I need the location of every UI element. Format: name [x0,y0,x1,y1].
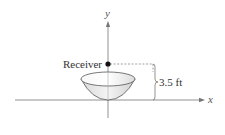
receiver-dot [105,61,110,66]
diagram-canvas: Receiver 3.5 ft y x [0,0,225,135]
y-axis-label: y [104,7,110,19]
x-axis-label: x [207,93,213,105]
x-axis-arrow-icon [199,98,205,102]
receiver-label: Receiver [63,58,102,70]
y-axis [106,21,110,118]
y-axis-arrow-icon [106,21,110,27]
parabolic-dish [81,72,135,100]
diagram-svg: Receiver 3.5 ft y x [0,0,225,135]
brace-icon [153,64,158,100]
dimension-label: 3.5 ft [159,76,182,88]
